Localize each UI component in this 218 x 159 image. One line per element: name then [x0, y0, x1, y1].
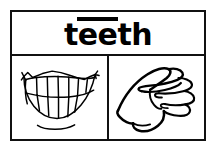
page-title: teeth [64, 17, 152, 50]
headword-row: teeth teeth [12, 12, 204, 56]
headword-segment-2-macron: ee [78, 20, 118, 50]
illustration-panels [12, 56, 204, 139]
mouth-panel [12, 56, 109, 139]
headword-segment-1: t [64, 20, 78, 50]
chin-crease [38, 125, 75, 129]
flashcard: teeth teeth [10, 10, 206, 141]
mouth-teeth-icon [12, 56, 107, 139]
hand-panel [109, 56, 204, 139]
hand-sign-icon [109, 56, 204, 139]
headword-segment-3: th [117, 20, 152, 50]
